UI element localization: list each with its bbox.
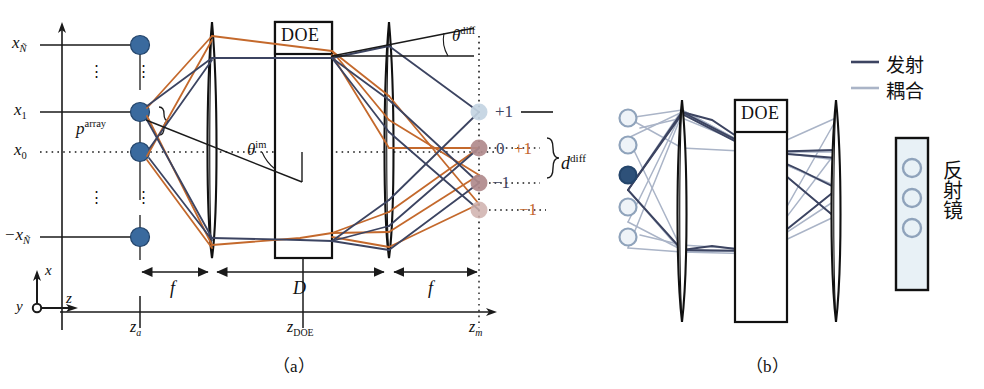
- lens-b1: [678, 100, 687, 322]
- coord-label-y: y: [16, 298, 23, 315]
- z-label-mirror: zm: [469, 318, 482, 338]
- ellipsis-upper-right: ⋮: [136, 62, 151, 80]
- coord-label-z: z: [66, 290, 72, 307]
- dim-label-f-left: f: [170, 278, 175, 299]
- dim-label-D: D: [293, 278, 306, 299]
- legend-emission-label: 发射: [886, 50, 924, 77]
- coord-label-x: x: [45, 262, 52, 279]
- source-circle: [620, 137, 637, 154]
- axis-label-xN: xÑ: [12, 33, 27, 54]
- source-dot: [131, 143, 150, 162]
- ellipsis-upper-left: ⋮: [89, 62, 105, 80]
- pitch-label: parray: [76, 118, 106, 139]
- output-spot: [471, 202, 488, 219]
- order-label-row2-blue: 0: [496, 139, 505, 159]
- theta-diff-label: θdiff: [452, 25, 475, 46]
- figure-canvas: xÑ x1 x0 −xÑ ⋮ ⋮ ⋮ ⋮ parray θim θdiff …: [0, 0, 984, 389]
- mirror-label: 反射镜: [940, 160, 961, 220]
- x-axis: [58, 22, 66, 330]
- lens-b2: [832, 100, 841, 322]
- output-spot-column: [471, 104, 488, 219]
- doe-label-a: DOE: [281, 25, 320, 46]
- z-label-array: za: [130, 318, 141, 338]
- output-spot: [471, 104, 488, 121]
- order-label-row2-orange: +1: [514, 139, 532, 159]
- order-label-row3-blue: −1: [492, 173, 510, 193]
- d-diff-label: ddiff: [561, 152, 586, 174]
- mirror-element: [896, 138, 928, 290]
- source-circle: [620, 229, 637, 246]
- doe-label-b: DOE: [741, 103, 780, 124]
- rays-coupling: [628, 110, 836, 254]
- ellipsis-lower-right: ⋮: [136, 188, 151, 206]
- source-circle: [620, 199, 637, 216]
- output-spot: [471, 140, 488, 157]
- dim-label-f-right: f: [428, 278, 433, 299]
- order-label-row4-orange: −1: [519, 200, 537, 220]
- panel-b-group: [620, 62, 929, 322]
- axis-label-minus-xN: −xÑ: [4, 225, 30, 246]
- legend-coupling-label: 耦合: [886, 76, 924, 103]
- output-spot: [471, 175, 488, 192]
- source-dot: [131, 36, 150, 55]
- source-circle-active: [620, 167, 637, 184]
- source-circle: [620, 110, 637, 127]
- axis-label-x0: x0: [14, 140, 27, 161]
- source-dot: [131, 228, 150, 247]
- panel-b-label: （b）: [746, 352, 789, 377]
- order-label-row1-blue: +1: [495, 102, 513, 122]
- doe-element-b: [735, 100, 787, 322]
- z-label-doe: zDOE: [287, 318, 314, 338]
- axis-label-x1: x1: [14, 100, 27, 121]
- panel-a-label: （a）: [273, 352, 315, 377]
- ellipsis-lower-left: ⋮: [89, 188, 104, 206]
- d-diff-brace: [547, 138, 559, 178]
- theta-im-label: θim: [247, 139, 266, 160]
